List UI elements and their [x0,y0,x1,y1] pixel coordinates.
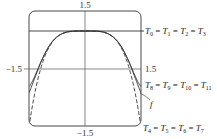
tick-label-right: 1.5 [145,64,157,74]
tick-label-left: −1.5 [6,64,23,74]
label-t8-t11: T8 = T9 = T10 = T11 [145,80,212,91]
label-t4-t7: T4 = T5 = T6 = T7 [143,123,204,134]
label-t0-t3: T0 = T1 = T2 = T3 [145,26,206,37]
label-f: f [150,99,154,109]
tick-label-top: 1.5 [79,0,91,10]
f-arrow [140,93,150,100]
tick-label-bottom: −1.5 [77,128,94,138]
taylor-polynomial-plot: 1.5 −1.5 −1.5 1.5 T0 = T1 = T2 = T3 T8 =… [0,0,217,139]
